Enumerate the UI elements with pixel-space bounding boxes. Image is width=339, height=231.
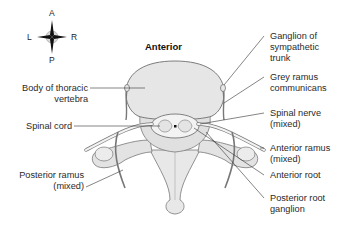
label-line: vertebra: [22, 94, 88, 105]
label-anterior-root: Anterior root: [270, 170, 321, 181]
label-line: Grey ramus: [270, 72, 327, 83]
label-ganglion-sympathetic-trunk: Ganglion of sympathetic trunk: [270, 31, 319, 64]
label-line: (mixed): [270, 119, 321, 130]
label-posterior-ramus: Posterior ramus (mixed): [19, 170, 84, 192]
label-line: communicans: [270, 83, 327, 94]
label-line: Spinal cord: [26, 121, 72, 132]
label-line: (mixed): [270, 154, 330, 165]
label-posterior-root-ganglion: Posterior root ganglion: [270, 193, 325, 215]
compass-right-label: R: [71, 32, 77, 42]
label-spinal-cord: Spinal cord: [26, 121, 72, 132]
label-line: Ganglion of: [270, 31, 319, 42]
label-line: (mixed): [19, 181, 84, 192]
diagram-title-anterior: Anterior: [145, 41, 182, 52]
vertebral-body: [126, 61, 224, 120]
left-posterior-root-ganglion: [95, 147, 113, 161]
label-body-of-thoracic-vertebra: Body of thoracic vertebra: [22, 83, 88, 105]
label-line: Posterior root: [270, 193, 325, 204]
label-line: ganglion: [270, 204, 325, 215]
label-anterior-ramus: Anterior ramus (mixed): [270, 143, 330, 165]
label-spinal-nerve: Spinal nerve (mixed): [270, 108, 321, 130]
compass-rose-icon: [37, 20, 67, 54]
label-grey-ramus-communicans: Grey ramus communicans: [270, 72, 327, 94]
label-line: trunk: [270, 53, 319, 64]
label-line: Anterior ramus: [270, 143, 330, 154]
compass-posterior-label: P: [49, 55, 55, 65]
label-line: sympathetic: [270, 42, 319, 53]
label-line: Posterior ramus: [19, 170, 84, 181]
compass-left-label: L: [27, 32, 32, 42]
label-line: Body of thoracic: [22, 83, 88, 94]
label-line: Anterior root: [270, 170, 321, 181]
label-line: Spinal nerve: [270, 108, 321, 119]
compass-anterior-label: A: [49, 8, 55, 18]
